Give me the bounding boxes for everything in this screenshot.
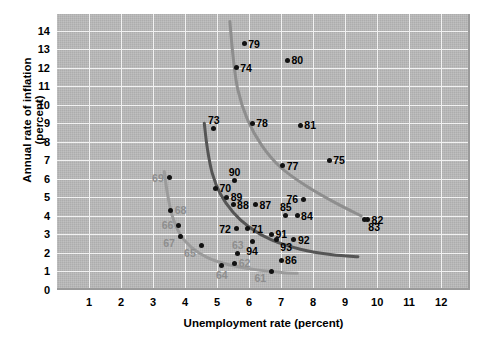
data-point-label: 86 <box>285 255 297 266</box>
data-point-label: 72 <box>219 224 231 235</box>
x-tick-label: 11 <box>397 297 421 308</box>
data-point-label: 65 <box>184 248 196 259</box>
data-point <box>279 258 284 263</box>
data-point-label: 90 <box>229 167 241 178</box>
data-point <box>242 41 247 46</box>
data-point <box>213 186 218 191</box>
trend-curve-phillips-curve-1980s <box>230 21 361 215</box>
data-point <box>168 208 173 213</box>
x-tick-label: 9 <box>333 297 357 308</box>
data-point-label: 71 <box>251 224 263 235</box>
x-tick-label: 6 <box>237 297 261 308</box>
x-tick-label: 1 <box>77 297 101 308</box>
data-point-label: 78 <box>256 118 268 129</box>
data-point <box>298 123 303 128</box>
data-point <box>178 234 183 239</box>
data-point-label: 85 <box>280 202 292 213</box>
data-point <box>285 58 290 63</box>
data-point-label: 67 <box>163 238 175 249</box>
data-point-label: 81 <box>304 120 316 131</box>
x-tick-label: 10 <box>365 297 389 308</box>
data-point <box>234 65 239 70</box>
data-point-label: 89 <box>231 192 243 203</box>
data-point-label: 64 <box>216 270 228 281</box>
plot-area: 6162636465666768697071727374757677787980… <box>57 14 470 290</box>
data-point-label: 61 <box>255 273 267 284</box>
x-tick-label: 7 <box>269 297 293 308</box>
data-point-label: 74 <box>240 63 252 74</box>
data-point-label: 83 <box>368 222 380 233</box>
data-point-label: 79 <box>248 39 260 50</box>
x-tick-label: 3 <box>141 297 165 308</box>
data-point-label: 75 <box>333 155 345 166</box>
y-tick-label: 1 <box>28 266 50 277</box>
data-point-label: 94 <box>246 246 258 257</box>
x-axis-title: Unemployment rate (percent) <box>57 317 470 329</box>
x-tick-label: 5 <box>205 297 229 308</box>
data-point-label: 93 <box>280 242 292 253</box>
data-point-label: 68 <box>175 205 187 216</box>
y-tick-label: 0 <box>28 285 50 296</box>
x-tick-label: 2 <box>109 297 133 308</box>
data-point <box>269 269 274 274</box>
y-tick-label: 4 <box>28 211 50 222</box>
y-tick-label: 3 <box>28 229 50 240</box>
data-point-label: 70 <box>219 183 231 194</box>
y-tick-label: 2 <box>28 248 50 259</box>
data-point-label: 69 <box>152 173 164 184</box>
x-tick-label: 12 <box>429 297 453 308</box>
data-point-label: 66 <box>162 220 174 231</box>
data-point <box>362 217 367 222</box>
data-point <box>231 202 236 207</box>
data-point-label: 77 <box>287 161 299 172</box>
trend-curves <box>57 14 470 290</box>
data-point-label: 87 <box>259 200 271 211</box>
x-tick-label: 8 <box>301 297 325 308</box>
data-point-label: 92 <box>298 235 310 246</box>
data-point-label: 63 <box>232 240 244 251</box>
y-axis-title: Annual rate of inflation (percent) <box>21 35 45 205</box>
data-point-label: 62 <box>239 258 251 269</box>
phillips-curve-chart: 6162636465666768697071727374757677787980… <box>0 0 479 341</box>
data-point <box>199 243 204 248</box>
data-point-label: 80 <box>292 55 304 66</box>
data-point-label: 73 <box>208 115 220 126</box>
data-point <box>232 261 237 266</box>
x-tick-label: 4 <box>173 297 197 308</box>
data-point <box>301 197 306 202</box>
data-point <box>327 158 332 163</box>
data-point-label: 84 <box>301 211 313 222</box>
data-point <box>269 232 274 237</box>
data-point <box>176 223 181 228</box>
data-point <box>250 121 255 126</box>
